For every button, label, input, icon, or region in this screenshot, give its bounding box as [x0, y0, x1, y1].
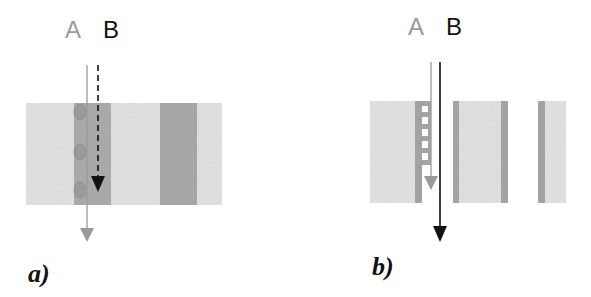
- panel-caption-a: a): [28, 259, 50, 288]
- dark-layer-right: [160, 103, 197, 205]
- surface-bumps: [74, 104, 86, 198]
- dark-strip-1: [415, 101, 422, 203]
- panel-b: A B b): [370, 13, 566, 281]
- dark-strip-3: [501, 101, 508, 203]
- label-a: A: [65, 16, 81, 43]
- dark-strip-2: [453, 101, 459, 203]
- label-a: A: [408, 13, 424, 40]
- light-block-1: [370, 101, 420, 203]
- label-b: B: [103, 16, 119, 43]
- ladder-structure: [422, 101, 431, 165]
- panel-a: A B a): [26, 16, 222, 288]
- panel-caption-b: b): [372, 252, 394, 281]
- dark-strip-4: [538, 101, 545, 203]
- arrow-b-panel-arrow-b-icon: [433, 62, 447, 242]
- diagram-canvas: A B a) A B: [0, 0, 591, 297]
- light-block-2: [453, 101, 508, 203]
- label-b: B: [446, 13, 462, 40]
